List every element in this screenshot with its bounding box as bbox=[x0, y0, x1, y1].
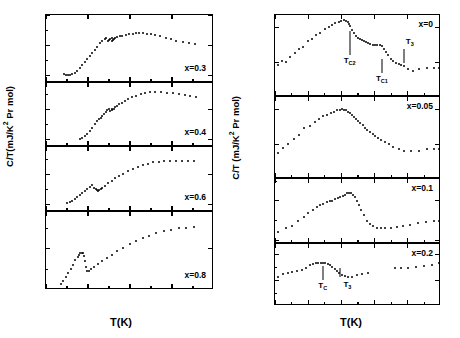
data-point bbox=[74, 72, 76, 74]
series-label: x=0 bbox=[419, 19, 433, 29]
x-tick-mark bbox=[129, 284, 130, 288]
data-point bbox=[135, 95, 137, 97]
data-point bbox=[189, 95, 191, 97]
x-minor-tick bbox=[192, 208, 193, 210]
data-point bbox=[307, 40, 309, 42]
x-tick-mark bbox=[308, 244, 309, 248]
data-point bbox=[132, 33, 134, 35]
y-tick-mark bbox=[208, 14, 212, 15]
series-label: x=0.4 bbox=[184, 127, 206, 137]
y-tick-mark bbox=[275, 200, 279, 201]
y-tick-mark bbox=[435, 280, 439, 281]
x-tick-mark bbox=[407, 91, 408, 95]
data-point bbox=[146, 33, 148, 35]
x-minor-tick bbox=[357, 93, 358, 95]
y-tick-mark bbox=[275, 254, 279, 255]
data-point bbox=[77, 256, 79, 258]
x-tick-mark bbox=[129, 206, 130, 210]
x-tick-mark bbox=[274, 300, 275, 304]
x-tick-mark bbox=[171, 77, 172, 81]
data-point bbox=[84, 190, 86, 192]
y-tick-mark bbox=[46, 174, 50, 175]
data-point bbox=[128, 33, 130, 35]
data-point bbox=[281, 60, 283, 62]
subplot-right-p2: 250030003500x=0.05 bbox=[274, 96, 440, 178]
data-point bbox=[358, 204, 360, 206]
data-point bbox=[356, 200, 358, 202]
data-point bbox=[314, 121, 316, 123]
data-point bbox=[163, 160, 165, 162]
x-tick-mark bbox=[341, 238, 342, 242]
data-point bbox=[392, 146, 394, 148]
data-point bbox=[81, 192, 83, 194]
data-point bbox=[111, 254, 113, 256]
y-minor-tick bbox=[275, 220, 277, 221]
data-point bbox=[107, 182, 109, 184]
data-point bbox=[137, 166, 139, 168]
data-point bbox=[360, 209, 362, 211]
data-point bbox=[412, 70, 414, 72]
y-minor-tick bbox=[275, 293, 277, 294]
data-point bbox=[135, 32, 137, 34]
x-tick-mark bbox=[308, 173, 309, 177]
data-point bbox=[291, 225, 293, 227]
x-minor-tick bbox=[357, 302, 358, 304]
x-minor-tick bbox=[192, 143, 193, 145]
y-minor-tick bbox=[46, 30, 48, 31]
series-label: x=0.3 bbox=[184, 63, 206, 73]
data-point bbox=[331, 24, 333, 26]
x-tick-mark bbox=[129, 147, 130, 151]
x-tick-mark bbox=[87, 15, 88, 19]
data-point bbox=[293, 138, 295, 140]
data-point bbox=[287, 143, 289, 145]
data-point bbox=[101, 40, 103, 42]
y-tick-mark bbox=[435, 144, 439, 145]
data-point bbox=[76, 70, 78, 72]
x-minor-tick bbox=[66, 208, 67, 210]
data-point bbox=[127, 98, 129, 100]
x-minor-tick bbox=[66, 79, 67, 81]
x-minor-tick bbox=[324, 240, 325, 242]
data-point bbox=[100, 117, 102, 119]
x-tick-mark bbox=[374, 244, 375, 248]
annotation-subscript: C2 bbox=[349, 60, 356, 66]
data-point bbox=[285, 61, 287, 63]
y-tick-mark bbox=[208, 139, 212, 140]
y-tick-mark bbox=[46, 14, 50, 15]
x-tick-mark bbox=[341, 97, 342, 101]
data-point bbox=[403, 65, 405, 67]
series-label: x=0.2 bbox=[411, 248, 433, 258]
x-minor-tick bbox=[391, 93, 392, 95]
data-point bbox=[111, 180, 113, 182]
data-point bbox=[333, 111, 335, 113]
data-point bbox=[426, 67, 428, 69]
right-panel-group: C/T (mJ/K2 Pr mol) T(K) 2500300035001.51… bbox=[228, 0, 460, 338]
x-minor-tick bbox=[357, 175, 358, 177]
data-point bbox=[409, 224, 411, 226]
left-x-axis-title: T(K) bbox=[110, 316, 132, 328]
x-tick-mark bbox=[45, 206, 46, 210]
data-point bbox=[294, 52, 296, 54]
data-point bbox=[312, 263, 314, 265]
data-point bbox=[291, 271, 293, 273]
x-tick-mark bbox=[87, 212, 88, 216]
y-tick-mark bbox=[275, 280, 279, 281]
x-minor-tick bbox=[150, 143, 151, 145]
data-point bbox=[172, 92, 174, 94]
data-point bbox=[62, 280, 64, 282]
annotation-subscript: 3 bbox=[348, 284, 351, 290]
y-minor-tick bbox=[46, 269, 48, 270]
x-tick-mark bbox=[274, 15, 275, 19]
x-tick-mark bbox=[374, 97, 375, 101]
x-tick-mark bbox=[87, 83, 88, 87]
annotation-leader-line bbox=[403, 49, 404, 63]
y-tick-mark bbox=[435, 62, 439, 63]
data-point bbox=[96, 46, 98, 48]
data-point bbox=[101, 260, 103, 262]
data-point bbox=[287, 272, 289, 274]
x-minor-tick bbox=[192, 79, 193, 81]
y-tick-mark bbox=[275, 144, 279, 145]
x-minor-tick bbox=[291, 175, 292, 177]
data-point bbox=[131, 96, 133, 98]
data-point bbox=[142, 32, 144, 34]
